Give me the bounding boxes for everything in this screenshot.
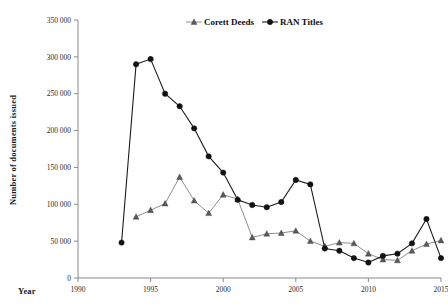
y-tick-label: 350 000 — [47, 16, 72, 25]
data-point-ran — [424, 216, 429, 221]
legend-marker-circle-icon — [267, 19, 272, 24]
x-tick-label: 2015 — [434, 285, 448, 294]
y-tick-label: 300 000 — [47, 53, 72, 62]
series-corett — [133, 174, 444, 263]
y-tick-label: 250 000 — [47, 89, 72, 98]
data-point-corett — [365, 251, 371, 257]
y-axis: 050 000100 000150 000200 000250 000300 0… — [47, 16, 78, 283]
data-point-ran — [322, 246, 327, 251]
data-point-ran — [308, 182, 313, 187]
x-tick-label: 2005 — [288, 285, 303, 294]
data-point-corett — [220, 192, 226, 198]
legend-item-ran[interactable]: RAN Titles — [262, 17, 323, 27]
data-point-ran — [119, 240, 124, 245]
x-tick-label: 1995 — [143, 285, 158, 294]
data-point-ran — [206, 154, 211, 159]
x-tick-label: 2010 — [361, 285, 376, 294]
data-point-ran — [250, 202, 255, 207]
series-line-corett — [136, 177, 441, 260]
data-point-ran — [380, 253, 385, 258]
data-point-corett — [307, 238, 313, 244]
y-tick-label: 150 000 — [47, 163, 72, 172]
legend-label: RAN Titles — [280, 17, 323, 27]
data-point-corett — [148, 207, 154, 213]
data-point-corett — [133, 214, 139, 220]
data-point-corett — [438, 237, 444, 243]
data-point-corett — [191, 198, 197, 204]
data-point-ran — [177, 104, 182, 109]
chart-series-layer — [119, 56, 444, 265]
data-point-ran — [293, 177, 298, 182]
y-tick-label: 0 — [67, 274, 71, 283]
data-point-ran — [351, 255, 356, 260]
data-point-ran — [409, 241, 414, 246]
data-point-corett — [177, 174, 183, 180]
data-point-ran — [221, 170, 226, 175]
data-point-ran — [235, 197, 240, 202]
chart-legend: Corett DeedsRAN Titles — [186, 17, 323, 27]
y-tick-label: 50 000 — [50, 237, 71, 246]
data-point-ran — [438, 255, 443, 260]
data-point-ran — [162, 91, 167, 96]
data-point-ran — [395, 251, 400, 256]
legend-item-corett[interactable]: Corett Deeds — [186, 17, 255, 27]
data-point-ran — [264, 205, 269, 210]
chart-figure: Corett DeedsRAN Titles 050 000100 000150… — [0, 0, 448, 307]
y-tick-label: 200 000 — [47, 126, 72, 135]
data-point-ran — [191, 126, 196, 131]
data-point-corett — [293, 228, 299, 234]
data-point-ran — [366, 260, 371, 265]
data-point-ran — [337, 248, 342, 253]
data-point-ran — [133, 62, 138, 67]
data-point-ran — [279, 199, 284, 204]
legend-label: Corett Deeds — [204, 17, 255, 27]
x-axis: 199019952000200520102015 — [71, 278, 448, 294]
x-tick-label: 1990 — [71, 285, 86, 294]
data-point-corett — [409, 248, 415, 254]
y-axis-title: Number of documents issued — [8, 95, 18, 205]
x-axis-title: Year — [18, 286, 36, 296]
x-tick-label: 2000 — [216, 285, 231, 294]
y-tick-label: 100 000 — [47, 200, 72, 209]
line-chart-canvas: Corett DeedsRAN Titles 050 000100 000150… — [0, 0, 448, 307]
data-point-corett — [162, 200, 168, 206]
data-point-ran — [148, 56, 153, 61]
